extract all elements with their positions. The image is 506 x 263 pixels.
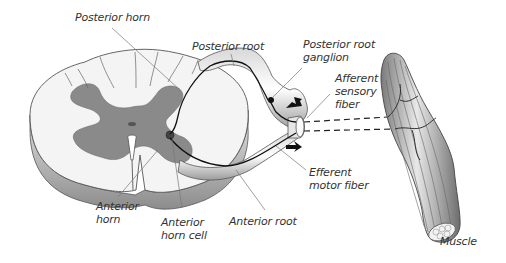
label-anterior-root: Anterior root [229,215,297,228]
label-muscle: Muscle [440,235,477,248]
spinal-cord [30,49,248,209]
label-posterior-root-ganglion: Posterior root ganglion [303,38,375,64]
spinal-reflex-diagram: Posterior horn Posterior root Posterior … [0,0,506,263]
label-anterior-horn-cell: Anterior horn cell [161,216,207,242]
leader-afferent [307,94,330,118]
label-posterior-root: Posterior root [192,40,264,53]
muscle [381,53,460,244]
sensory-fiber-dashed [304,117,388,122]
leader-anterior-root [236,170,265,210]
label-posterior-horn: Posterior horn [75,11,150,24]
leader-efferent [276,146,306,170]
label-efferent-motor-fiber: Efferent motor fiber [309,166,369,192]
label-anterior-horn: Anterior horn [96,200,139,226]
anterior-horn-cell [166,131,174,139]
central-canal [128,122,136,126]
ganglion-cell [268,97,274,103]
nerve-cut-end [296,117,304,137]
label-afferent-sensory-fiber: Afferent sensory fiber [335,72,378,111]
motor-fiber-dashed [304,129,395,131]
